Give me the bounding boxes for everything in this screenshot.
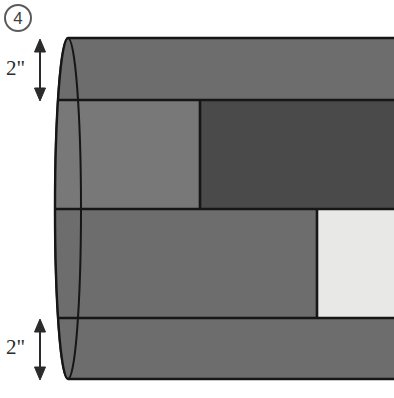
cylinder-figure (0, 0, 394, 398)
figure-stage: 4 (0, 0, 394, 398)
arrowhead-up-top (35, 39, 46, 52)
dimension-arrow-top (35, 39, 46, 101)
band-lower-left-medium (55, 209, 318, 319)
band-middle-right-dark (200, 100, 394, 210)
arrowhead-down-top (35, 88, 46, 101)
band-top (55, 37, 394, 101)
band-bottom (55, 318, 394, 380)
arrowhead-down-bottom (35, 367, 46, 380)
dimension-label-bottom: 2" (6, 335, 25, 360)
cylinder-lateral-surface (55, 37, 394, 380)
dimension-label-top: 2" (6, 56, 25, 81)
dimension-arrows (35, 39, 46, 380)
band-lower-right-white (317, 209, 394, 319)
arrowhead-up-bottom (35, 319, 46, 332)
band-middle-left-light (55, 100, 201, 210)
dimension-arrow-bottom (35, 319, 46, 380)
